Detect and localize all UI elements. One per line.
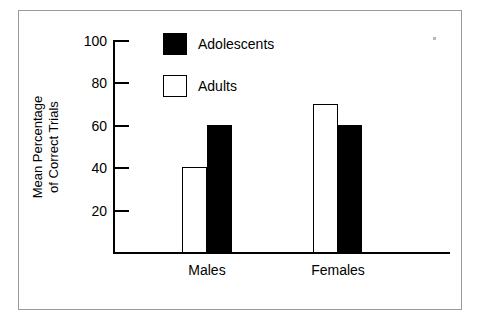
bar-chart-plot: 100 80 60 40 20 Mean Percentage of Corre… — [0, 0, 482, 330]
y-tick-20: 20 — [113, 210, 129, 212]
legend-label-adolescents: Adolescents — [198, 36, 274, 52]
bar-males-adults — [182, 167, 207, 253]
y-tick-label: 40 — [91, 161, 107, 175]
y-tick-label: 80 — [91, 76, 107, 90]
y-axis-title-line2: of Correct Trials — [46, 101, 62, 193]
legend-label-adults: Adults — [198, 78, 237, 94]
scan-artifact-speck — [433, 37, 436, 40]
open-square-icon — [163, 75, 187, 97]
filled-square-icon — [163, 33, 187, 55]
legend-item-adults: Adults — [163, 75, 237, 97]
y-tick-60: 60 — [113, 125, 129, 127]
y-axis-title: Mean Percentage of Correct Trials — [28, 62, 64, 232]
figure-canvas: 100 80 60 40 20 Mean Percentage of Corre… — [0, 0, 482, 330]
y-tick-mark — [113, 125, 129, 127]
bar-females-adults — [313, 104, 338, 253]
y-tick-mark — [113, 40, 129, 42]
y-tick-40: 40 — [113, 167, 129, 169]
x-label-females: Females — [298, 262, 378, 278]
y-tick-100: 100 — [113, 40, 129, 42]
y-tick-80: 80 — [113, 82, 129, 84]
y-axis-line — [113, 40, 115, 254]
x-label-males: Males — [167, 262, 247, 278]
y-tick-label: 20 — [91, 204, 107, 218]
y-tick-mark — [113, 210, 129, 212]
y-tick-mark — [113, 167, 129, 169]
bar-males-adolescents — [207, 125, 232, 253]
bar-females-adolescents — [338, 125, 362, 253]
y-axis-title-line1: Mean Percentage — [30, 96, 46, 199]
y-tick-label: 100 — [84, 34, 107, 48]
y-tick-mark — [113, 82, 129, 84]
legend-item-adolescents: Adolescents — [163, 33, 274, 55]
x-axis-line — [113, 252, 450, 254]
y-tick-label: 60 — [91, 119, 107, 133]
